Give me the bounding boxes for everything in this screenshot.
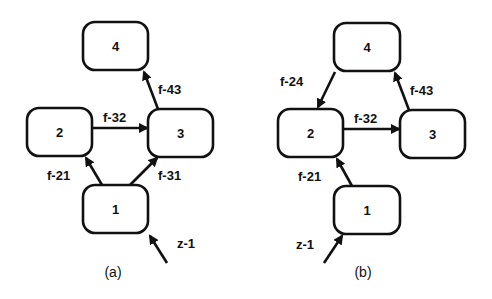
node-a-2: 2 xyxy=(27,108,92,156)
node-b-4: 4 xyxy=(334,23,400,71)
edge-b-4-to-2 xyxy=(318,72,335,107)
node-a-3: 3 xyxy=(148,109,213,157)
node-b-2: 2 xyxy=(278,109,343,157)
node-b-1: 1 xyxy=(334,186,400,234)
panel-a: 4 2 3 1 f-43 f-32 f-21 f-31 z-1 (a) xyxy=(27,22,213,280)
diagram-canvas: 4 2 3 1 f-43 f-32 f-21 f-31 z-1 (a) xyxy=(0,0,492,299)
panel-label-a: (a) xyxy=(104,264,121,280)
input-a-z1 xyxy=(150,236,167,263)
node-label: 2 xyxy=(56,125,63,140)
panel-b: 4 2 3 1 f-24 f-43 f-32 f-21 z-1 (b) xyxy=(278,23,465,280)
node-label: 1 xyxy=(363,203,370,218)
edge-label-f32: f-32 xyxy=(103,110,126,125)
node-b-3: 3 xyxy=(400,110,465,158)
edge-a-1-to-2 xyxy=(86,158,102,185)
node-label: 2 xyxy=(307,126,314,141)
panel-label-b: (b) xyxy=(354,264,371,280)
node-label: 1 xyxy=(112,202,119,217)
edge-label-f32: f-32 xyxy=(354,111,377,126)
node-label: 3 xyxy=(429,127,436,142)
node-label: 3 xyxy=(177,126,184,141)
node-label: 4 xyxy=(112,39,120,54)
edge-a-1-to-3 xyxy=(130,158,157,185)
input-label-z1: z-1 xyxy=(296,237,314,252)
node-label: 4 xyxy=(363,40,371,55)
edge-b-3-to-4 xyxy=(395,73,409,110)
node-a-1: 1 xyxy=(83,185,148,233)
input-b-z1 xyxy=(324,236,342,263)
edge-label-f24: f-24 xyxy=(280,74,304,89)
edge-label-f21: f-21 xyxy=(298,169,321,184)
edge-label-f43: f-43 xyxy=(158,82,181,97)
edge-label-f43: f-43 xyxy=(410,83,433,98)
edge-a-3-to-4 xyxy=(144,72,158,109)
edge-b-1-to-2 xyxy=(337,159,352,186)
input-label-z1: z-1 xyxy=(177,236,195,251)
node-a-4: 4 xyxy=(83,22,148,70)
edge-label-f31: f-31 xyxy=(158,168,181,183)
edge-label-f21: f-21 xyxy=(47,168,70,183)
